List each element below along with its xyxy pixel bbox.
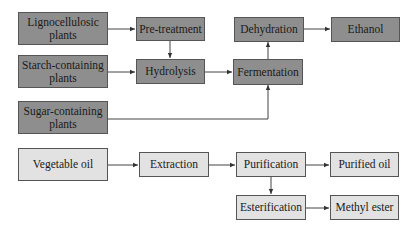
node-pre-treatment: Pre-treatment	[136, 17, 205, 41]
node-lignocellulosic-plants: Lignocellulosic plants	[18, 12, 108, 45]
node-starch-containing-plants: Starch-containing plants	[18, 55, 108, 88]
node-esterification: Esterification	[236, 195, 306, 220]
node-vegetable-oil: Vegetable oil	[18, 148, 108, 181]
node-purification: Purification	[236, 152, 306, 177]
node-dehydration: Dehydration	[234, 17, 304, 42]
node-ethanol: Ethanol	[331, 17, 400, 42]
node-fermentation: Fermentation	[233, 59, 303, 85]
node-extraction: Extraction	[139, 152, 209, 177]
node-purified-oil: Purified oil	[330, 152, 399, 177]
node-methyl-ester: Methyl ester	[330, 195, 399, 220]
node-hydrolysis: Hydrolysis	[136, 59, 205, 84]
node-sugar-containing-plants: Sugar-containing plants	[18, 101, 108, 134]
